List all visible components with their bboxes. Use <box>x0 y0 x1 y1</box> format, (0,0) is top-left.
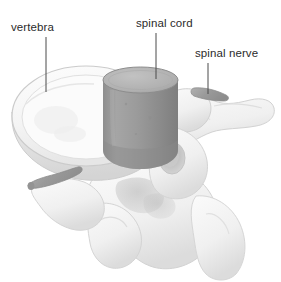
anatomy-illustration: vertebra spinal cord spinal nerve <box>0 0 281 282</box>
inferior-articular-process-right <box>191 196 245 280</box>
spinal-cord <box>103 67 178 169</box>
label-spinal-cord: spinal cord <box>136 17 193 30</box>
label-vertebra: vertebra <box>11 21 54 34</box>
label-spinal-nerve: spinal nerve <box>195 47 258 60</box>
vertebra-artwork <box>0 0 281 282</box>
